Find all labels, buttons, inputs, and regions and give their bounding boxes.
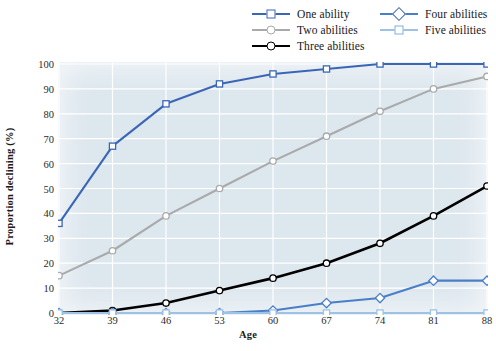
legend-item-four-abilities[interactable]: Four abilities: [380, 6, 487, 21]
legend-swatch-one-ability: [252, 8, 290, 20]
legend-swatch-four-abilities: [380, 8, 418, 20]
y-tick-label: 90: [26, 83, 54, 94]
y-axis-title: Proportion declining (%): [2, 60, 18, 312]
data-point: [375, 293, 384, 302]
data-point: [58, 272, 62, 278]
x-tick-label: 67: [312, 315, 342, 326]
legend-label-one-ability: One ability: [297, 8, 350, 20]
data-point: [430, 62, 436, 67]
legend-item-two-abilities[interactable]: Two abilities: [252, 22, 358, 37]
x-tick-label: 39: [98, 315, 128, 326]
legend-swatch-two-abilities: [252, 24, 290, 36]
x-tick-label: 81: [419, 315, 449, 326]
x-axis-title: Age: [0, 329, 496, 340]
data-point: [163, 300, 169, 306]
data-point: [484, 73, 488, 79]
y-axis-tick-labels: 0102030405060708090100: [24, 0, 54, 351]
data-point: [430, 86, 436, 92]
y-tick-label: 60: [26, 158, 54, 169]
x-tick-label: 60: [258, 315, 288, 326]
data-point: [377, 108, 383, 114]
data-point: [323, 66, 329, 72]
data-point: [216, 81, 222, 87]
data-point: [323, 260, 329, 266]
data-point: [482, 276, 488, 285]
y-tick-label: 40: [26, 208, 54, 219]
plot-svg: [58, 62, 488, 315]
y-tick-label: 50: [26, 183, 54, 194]
chart-legend: One ability Two abilities Three abilitie…: [252, 6, 496, 54]
data-point: [377, 240, 383, 246]
data-point: [58, 220, 62, 226]
legend-label-two-abilities: Two abilities: [297, 24, 358, 36]
data-point: [429, 276, 438, 285]
data-point: [163, 101, 169, 107]
data-point: [216, 185, 222, 191]
data-point: [484, 183, 488, 189]
y-tick-label: 100: [26, 59, 54, 70]
x-tick-label: 53: [205, 315, 235, 326]
y-tick-label: 30: [26, 233, 54, 244]
x-tick-label: 32: [44, 315, 74, 326]
data-point: [163, 213, 169, 219]
y-tick-label: 10: [26, 283, 54, 294]
data-point: [323, 133, 329, 139]
legend-item-five-abilities[interactable]: Five abilities: [380, 22, 486, 37]
x-tick-label: 46: [151, 315, 181, 326]
data-point: [322, 298, 331, 307]
data-point: [109, 248, 115, 254]
chart-figure: One ability Two abilities Three abilitie…: [0, 0, 496, 351]
legend-label-three-abilities: Three abilities: [297, 40, 365, 52]
legend-label-five-abilities: Five abilities: [425, 24, 486, 36]
legend-item-three-abilities[interactable]: Three abilities: [252, 38, 365, 53]
data-point: [377, 62, 383, 67]
data-point: [270, 158, 276, 164]
data-point: [109, 143, 115, 149]
legend-label-four-abilities: Four abilities: [425, 8, 487, 20]
legend-item-one-ability[interactable]: One ability: [252, 6, 350, 21]
y-tick-label: 70: [26, 133, 54, 144]
y-axis-title-text: Proportion declining (%): [5, 127, 16, 245]
plot-area: [58, 62, 488, 315]
y-tick-label: 80: [26, 108, 54, 119]
x-tick-label: 74: [365, 315, 395, 326]
legend-swatch-five-abilities: [380, 24, 418, 36]
legend-swatch-three-abilities: [252, 40, 290, 52]
data-point: [484, 62, 488, 67]
data-point: [270, 71, 276, 77]
x-tick-label: 88: [472, 315, 496, 326]
y-tick-label: 20: [26, 258, 54, 269]
data-point: [216, 287, 222, 293]
data-point: [430, 213, 436, 219]
data-point: [270, 275, 276, 281]
